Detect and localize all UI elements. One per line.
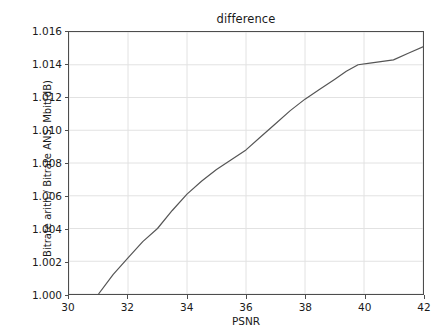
chart-figure: difference 1.0001.0021.0041.0061.0081.01… [0, 0, 444, 336]
x-tick-label: 40 [345, 301, 385, 313]
x-tick-label: 36 [226, 301, 266, 313]
x-axis-label: PSNR [68, 315, 424, 327]
data-series-line [69, 32, 423, 294]
x-tick-label: 32 [107, 301, 147, 313]
x-tick-label: 42 [404, 301, 444, 313]
x-tick-mark [68, 295, 69, 299]
x-tick-mark [365, 295, 366, 299]
y-axis-label-wrap: Bitrate arith / Bitrate ANS, Mbit(dB) [0, 0, 30, 336]
chart-title: difference [68, 12, 424, 26]
x-tick-mark [127, 295, 128, 299]
x-tick-mark [305, 295, 306, 299]
x-tick-mark [187, 295, 188, 299]
x-tick-label: 38 [285, 301, 325, 313]
x-tick-label: 34 [167, 301, 207, 313]
x-tick-mark [424, 295, 425, 299]
x-tick-label: 30 [48, 301, 88, 313]
x-tick-mark [246, 295, 247, 299]
plot-area [68, 31, 424, 295]
y-axis-label: Bitrate arith / Bitrate ANS, Mbit(dB) [42, 37, 53, 301]
y-tick-mark [65, 295, 69, 296]
